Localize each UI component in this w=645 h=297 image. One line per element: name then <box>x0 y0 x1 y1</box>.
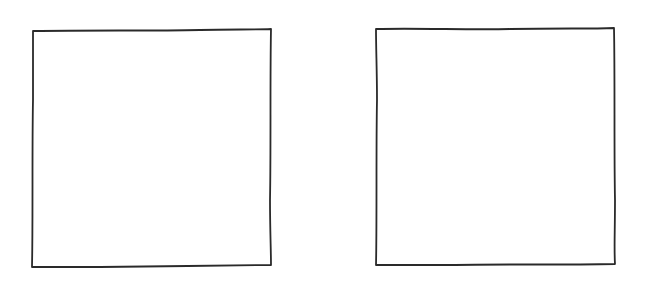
right-square <box>376 28 615 265</box>
left-square <box>32 29 271 267</box>
diagram-canvas <box>0 0 645 297</box>
